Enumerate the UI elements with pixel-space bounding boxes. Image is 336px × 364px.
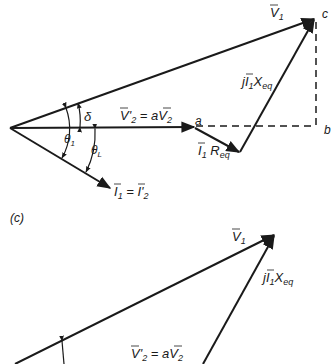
- figure-c: (c) V1 jI1Xeq V'2 = aV2: [10, 211, 293, 364]
- v2-prime-label-c: V'2 = aV2: [131, 346, 183, 363]
- v1-phasor-c: [15, 235, 274, 364]
- theta1-label: θ1: [64, 132, 75, 148]
- delta-angle-arc: [78, 103, 80, 127]
- phasor-diagram: V1 c a b δ θ1 θL V'2 = aV2 jI1Xeq I1 Req…: [0, 0, 336, 364]
- ji1-xeq-phasor-c: [203, 236, 274, 364]
- ji1-xeq-label-c: jI1Xeq: [261, 270, 293, 287]
- v2-prime-phasor: [10, 127, 194, 128]
- v1-label-c: V1: [232, 229, 246, 246]
- point-c-label: c: [322, 7, 328, 21]
- point-a-label: a: [195, 114, 202, 128]
- figure-b: V1 c a b δ θ1 θL V'2 = aV2 jI1Xeq I1 Req…: [10, 5, 331, 201]
- v1-label: V1: [270, 5, 284, 22]
- panel-label-c: (c): [10, 211, 24, 225]
- point-b-label: b: [324, 123, 331, 137]
- i1-req-label: I1 Req: [198, 143, 230, 160]
- thetaL-label: θL: [91, 143, 102, 159]
- delta-label: δ: [84, 109, 92, 124]
- angle-arc-c: [62, 341, 64, 364]
- v2-prime-label: V'2 = aV2: [120, 108, 172, 125]
- i1-equals-i2-label: I1 = I'2: [114, 184, 149, 201]
- ji1-xeq-label: jI1Xeq: [240, 74, 272, 91]
